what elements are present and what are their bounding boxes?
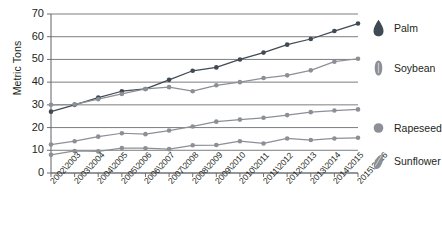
legend-label: Palm [394, 22, 418, 34]
data-point [143, 132, 148, 137]
data-point [261, 141, 266, 146]
y-tick-label: 60 [18, 31, 44, 42]
y-axis-ticks: 010203040506070 [18, 0, 44, 230]
data-point [120, 92, 125, 97]
data-point [214, 143, 219, 148]
data-point [356, 21, 361, 26]
data-point [190, 143, 195, 148]
data-point [238, 117, 243, 122]
data-point [356, 107, 361, 112]
data-point [308, 110, 313, 115]
data-point [238, 139, 243, 144]
data-point [356, 135, 361, 140]
data-point [356, 56, 361, 61]
data-point [285, 73, 290, 78]
legend-item-soybean[interactable]: Soybean [372, 58, 435, 78]
data-point [96, 97, 101, 102]
legend-label: Soybean [394, 62, 435, 74]
data-point [285, 42, 290, 47]
y-tick-label: 10 [18, 144, 44, 155]
series-rapeseed [49, 107, 361, 147]
data-point [285, 136, 290, 141]
data-point [214, 65, 219, 70]
data-point [261, 50, 266, 55]
data-point [308, 138, 313, 143]
legend-item-palm[interactable]: Palm [372, 18, 418, 38]
y-tick-label: 70 [18, 8, 44, 19]
data-point [214, 119, 219, 124]
data-point [308, 37, 313, 42]
data-point [167, 128, 172, 133]
data-point [214, 83, 219, 88]
legend-label: Sunflower [394, 155, 441, 167]
data-point [49, 103, 54, 108]
y-tick-label: 30 [18, 99, 44, 110]
legend-item-rapeseed[interactable]: Rapeseed [372, 118, 442, 138]
data-point [238, 57, 243, 62]
data-point [167, 85, 172, 90]
data-point [261, 116, 266, 121]
data-point [49, 142, 54, 147]
y-tick-label: 20 [18, 122, 44, 133]
data-point [49, 153, 54, 158]
rapeseed-circle-icon [372, 118, 385, 138]
data-point [143, 87, 148, 92]
data-point [332, 59, 337, 64]
data-point [238, 80, 243, 85]
data-point [190, 89, 195, 94]
data-point [120, 131, 125, 136]
data-point [167, 78, 172, 83]
sunflower-seed-icon [372, 151, 385, 171]
data-point [332, 136, 337, 141]
legend-label: Rapeseed [394, 122, 442, 134]
y-tick-label: 0 [18, 167, 44, 178]
data-point [285, 113, 290, 118]
data-point [72, 139, 77, 144]
soybean-oval-icon [372, 58, 385, 78]
data-point [261, 76, 266, 81]
data-point [190, 124, 195, 129]
data-point [190, 68, 195, 73]
legend-item-sunflower[interactable]: Sunflower [372, 151, 441, 171]
data-point [72, 102, 77, 107]
data-point [96, 134, 101, 139]
y-tick-label: 50 [18, 53, 44, 64]
data-point [49, 109, 54, 114]
data-point [308, 68, 313, 73]
data-point [332, 29, 337, 34]
data-point [332, 108, 337, 113]
palm-droplet-icon [372, 18, 385, 38]
y-tick-label: 40 [18, 76, 44, 87]
